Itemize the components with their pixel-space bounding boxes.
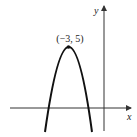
vertex-label: (−3, 5) [56, 33, 83, 45]
y-axis-label: y [93, 5, 99, 16]
x-axis-label: x [126, 111, 132, 122]
vertex-point [67, 45, 71, 49]
parabola-curve [45, 47, 92, 132]
parabola-graph: x y (−3, 5) [0, 0, 137, 137]
